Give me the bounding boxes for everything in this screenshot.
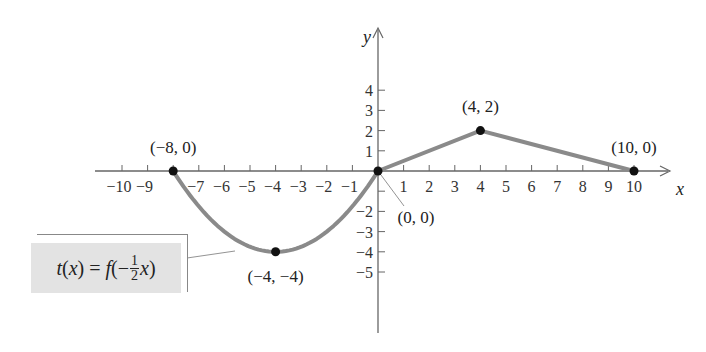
fraction-denominator: 2	[131, 269, 138, 283]
x-tick-label: −9	[136, 178, 153, 195]
data-point	[271, 247, 280, 256]
point-label: (4, 2)	[462, 97, 499, 116]
x-tick-label: 5	[502, 178, 510, 195]
x-tick-label: −1	[341, 178, 358, 195]
x-tick-label: −4	[264, 178, 281, 195]
formula-callout: t(x) = f(− 1 2 x)	[31, 243, 181, 293]
x-tick-label: −2	[315, 178, 332, 195]
x-tick-label: −6	[213, 178, 230, 195]
point-label: (−4, −4)	[248, 267, 304, 286]
formula-leader	[187, 251, 235, 258]
data-point	[476, 126, 485, 135]
y-tick-label: −4	[356, 244, 373, 261]
x-tick-label: 3	[451, 178, 459, 195]
x-tick-label: 9	[604, 178, 612, 195]
fraction-numerator: 1	[130, 254, 139, 269]
point-label: (−8, 0)	[150, 138, 196, 157]
y-tick-label: −2	[356, 203, 373, 220]
point-label: (0, 0)	[398, 208, 435, 227]
y-tick-label: 3	[365, 102, 373, 119]
data-point	[374, 167, 383, 176]
x-tick-label: 2	[425, 178, 433, 195]
x-axis-label: x	[675, 179, 684, 199]
y-tick-label: −5	[356, 264, 373, 281]
y-axis-label: y	[361, 27, 371, 47]
x-tick-label: 10	[626, 178, 642, 195]
y-tick-label: 2	[365, 123, 373, 140]
x-tick-label: 1	[400, 178, 408, 195]
x-tick-label: −3	[290, 178, 307, 195]
x-tick-label: 4	[476, 178, 484, 195]
y-tick-label: −3	[356, 224, 373, 241]
formula-text: t(x) = f(− 1 2 x)	[56, 254, 155, 283]
x-tick-label: −10	[106, 178, 131, 195]
y-tick-label: 4	[365, 82, 373, 99]
x-tick-label: 8	[579, 178, 587, 195]
x-tick-label: −5	[238, 178, 255, 195]
x-tick-label: 6	[528, 178, 536, 195]
data-point	[630, 167, 639, 176]
point-label: (10, 0)	[611, 138, 656, 157]
function-graph: xy−10−9−7−6−5−4−3−2−112345678910−5−4−3−2…	[0, 0, 706, 352]
x-tick-label: 7	[553, 178, 561, 195]
fraction: 1 2	[130, 254, 139, 283]
y-tick-label: 1	[365, 143, 373, 160]
data-point	[169, 167, 178, 176]
